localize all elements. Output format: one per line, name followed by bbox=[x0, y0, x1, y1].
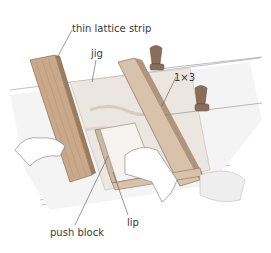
leader-lattice bbox=[57, 30, 72, 58]
label-push-block: push block bbox=[50, 228, 104, 238]
label-1x3: 1×3 bbox=[174, 73, 195, 83]
leader-jig bbox=[92, 60, 96, 82]
clamp-top bbox=[150, 46, 164, 71]
label-jig: jig bbox=[91, 49, 103, 59]
label-thin-lattice-strip: thin lattice strip bbox=[72, 24, 151, 34]
label-lip: lip bbox=[127, 218, 139, 228]
jig-illustration bbox=[0, 0, 271, 253]
saw-body bbox=[200, 171, 245, 202]
